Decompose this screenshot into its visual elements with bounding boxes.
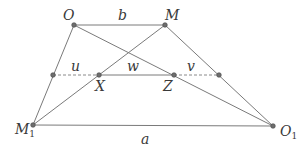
segment-bottom-M1O1 bbox=[33, 125, 273, 126]
point-right-mid bbox=[217, 73, 222, 78]
label-M1-main: M bbox=[14, 121, 30, 137]
point-O1 bbox=[271, 124, 276, 129]
label-O1-main: O bbox=[280, 123, 292, 139]
trapezoid-diagram: O M M1 O1 X Z b a u w v bbox=[0, 0, 306, 148]
point-O bbox=[72, 23, 77, 28]
point-left-mid bbox=[51, 73, 56, 78]
label-O1: O1 bbox=[280, 123, 297, 141]
label-v: v bbox=[187, 58, 195, 74]
point-Z bbox=[172, 73, 177, 78]
label-w: w bbox=[127, 58, 139, 74]
point-M1 bbox=[31, 123, 36, 128]
label-M1-sub: 1 bbox=[29, 129, 35, 139]
label-Z: Z bbox=[162, 78, 173, 94]
label-a: a bbox=[141, 131, 149, 147]
label-X: X bbox=[94, 78, 106, 94]
label-O: O bbox=[63, 7, 75, 23]
label-u: u bbox=[71, 58, 80, 74]
label-M: M bbox=[164, 7, 180, 23]
label-O1-sub: 1 bbox=[291, 131, 297, 141]
point-M bbox=[163, 23, 168, 28]
label-b: b bbox=[118, 7, 127, 23]
point-X bbox=[97, 73, 102, 78]
